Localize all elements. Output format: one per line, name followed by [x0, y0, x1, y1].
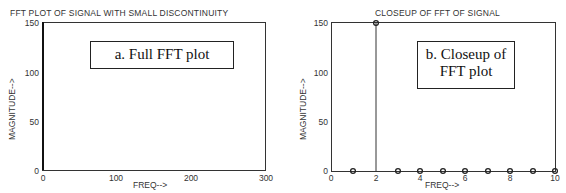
left-annotation-box: a. Full FFT plot	[90, 41, 234, 69]
left-spike-line	[0, 0, 283, 193]
right-annotation-line1: b. Closeup of	[418, 46, 514, 63]
right-xtick-8: 8	[498, 173, 522, 183]
left-chart-panel: FFT PLOT OF SIGNAL WITH SMALL DISCONTINU…	[0, 0, 283, 193]
left-xtick-100: 100	[104, 173, 128, 183]
right-xtick-0: 0	[319, 173, 343, 183]
left-x-axis-label: FREQ-->	[133, 180, 167, 190]
left-xtick-200: 200	[179, 173, 203, 183]
right-stem-plot	[283, 0, 566, 193]
right-annotation-line2: FFT plot	[418, 63, 514, 80]
right-chart-panel: CLOSEUP OF FFT OF SIGNAL MAGNITUDE--> 15…	[283, 0, 566, 193]
left-xtick-300: 300	[254, 173, 278, 183]
left-xtick-0: 0	[31, 173, 55, 183]
right-xtick-2: 2	[364, 173, 388, 183]
right-xtick-10: 10	[543, 173, 566, 183]
right-annotation-box: b. Closeup of FFT plot	[417, 41, 515, 89]
right-x-axis-label: FREQ-->	[425, 180, 459, 190]
